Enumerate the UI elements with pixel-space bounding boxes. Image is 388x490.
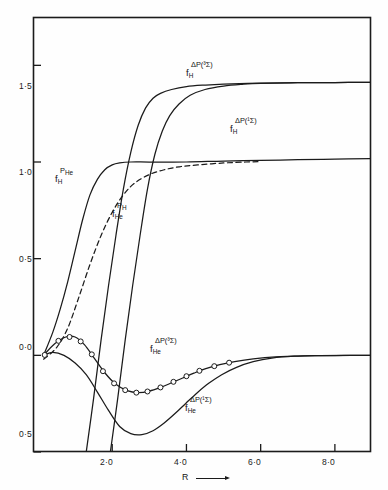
data-marker-4-3: [78, 339, 83, 344]
x-tick-label-1: 2·0: [100, 457, 113, 467]
curve-label-fhe-dp1: ΔP(¹Σ) fHe: [185, 403, 196, 414]
data-marker-4-11: [171, 379, 176, 384]
data-marker-4-0: [42, 352, 47, 357]
curve-label-fhe-dp3-sub: He: [153, 348, 161, 355]
axis-ticks: [34, 65, 335, 452]
x-tick-label-3: 6·0: [248, 457, 261, 467]
curve-label-fhe-dp1-sub: He: [188, 407, 196, 414]
data-marker-4-14: [212, 364, 217, 369]
data-marker-4-1: [56, 338, 61, 343]
figure-page: 1·5 1·0 0·5 0·0 0·5 2·0 4·0 6·0 8·0 R ΔP…: [0, 0, 388, 490]
curve-label-fh-dp1: ΔP(¹Σ) fH: [230, 124, 237, 135]
data-marker-4-13: [197, 368, 202, 373]
x-tick-label-2: 4·0: [174, 457, 187, 467]
data-marker-4-9: [145, 389, 150, 394]
curve-label-fhe-ph-sup: PH: [117, 202, 127, 211]
data-marker-4-4: [89, 352, 94, 357]
curve-label-fh-phe-sup: PHe: [60, 167, 73, 176]
chart-canvas: [0, 0, 388, 490]
y-tick-label-5: 0·5: [8, 429, 32, 439]
curve-label-fh-dp3-sup: ΔP(³Σ): [191, 61, 213, 69]
y-tick-label-2: 1·0: [8, 167, 32, 177]
curve-label-fh-dp3-sub: H: [189, 72, 194, 79]
data-marker-4-8: [134, 390, 139, 395]
curve-label-fh-phe-sub: H: [58, 178, 63, 185]
data-marker-4-6: [112, 381, 117, 386]
curve-label-fh-dp1-base: fH: [230, 124, 237, 135]
curve-label-fhe-dp1-base: fHe: [185, 403, 196, 414]
x-axis-title: R: [182, 472, 188, 482]
data-marker-4-12: [184, 374, 189, 379]
data-marker-4-15: [227, 360, 232, 365]
curve-label-fh-dp1-sub: H: [233, 128, 238, 135]
curve-label-fh-dp3: ΔP(³Σ) fH: [186, 68, 193, 79]
x-axis-arrow-head: [225, 476, 230, 480]
x-tick-label-4: 8·0: [322, 457, 335, 467]
data-marker-4-5: [100, 369, 105, 374]
curve-label-fhe-dp3-base: fHe: [150, 344, 161, 355]
curve-label-fhe-dp3-sup: ΔP(³Σ): [155, 337, 177, 345]
curve-label-fhe-dp3: ΔP(³Σ) fHe: [150, 344, 161, 355]
data-marker-4-10: [158, 385, 163, 390]
curve-label-fh-phe-sup-sub: He: [65, 169, 73, 176]
curve-label-fh-phe: PHe fH: [55, 174, 62, 185]
y-tick-label-4: 0·0: [8, 342, 32, 352]
curve-label-fhe-ph-sub: He: [115, 213, 123, 220]
curve-1: [44, 162, 261, 360]
data-marker-4-2: [67, 334, 72, 339]
curve-label-fhe-ph: PH fHe: [112, 209, 123, 220]
x-axis-arrow-line: [196, 478, 226, 479]
curve-5: [44, 352, 372, 434]
data-markers: [42, 334, 231, 395]
curve-label-fh-dp3-base: fH: [186, 68, 193, 79]
curve-label-fh-dp1-sup: ΔP(¹Σ): [235, 117, 257, 125]
y-tick-label-3: 0·5: [8, 254, 32, 264]
curve-3: [110, 82, 372, 452]
curve-label-fhe-ph-sup-sub: H: [122, 204, 127, 211]
curve-label-fhe-dp1-sup: ΔP(¹Σ): [190, 396, 212, 404]
curve-2: [86, 82, 372, 452]
y-tick-label-1: 1·5: [8, 81, 32, 91]
data-marker-4-7: [123, 388, 128, 393]
